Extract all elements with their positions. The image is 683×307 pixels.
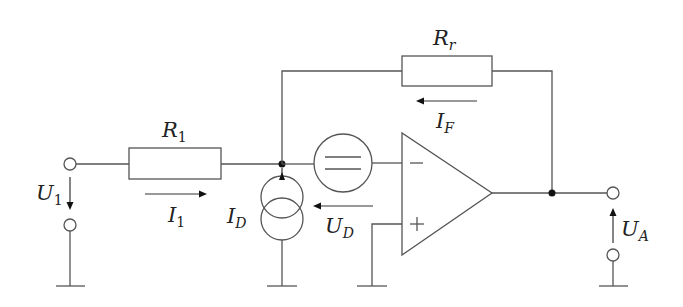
i1-current-arrow xyxy=(145,191,207,198)
rr-label: Rr xyxy=(432,26,457,53)
if-current-arrow xyxy=(416,98,477,105)
wire-plus-ground xyxy=(372,224,402,286)
output-terminal-top xyxy=(607,187,619,199)
resistor-rr xyxy=(402,56,492,86)
id-current-arrow xyxy=(279,168,285,180)
r1-label: R1 xyxy=(161,118,187,145)
resistor-r1 xyxy=(129,148,221,179)
input-terminal-top xyxy=(64,158,76,170)
circuit-diagram: U1 R1 I1 Rr IF xyxy=(0,0,683,307)
id-label: ID xyxy=(226,204,247,231)
ud-voltage-arrow xyxy=(313,203,373,210)
junction-output-node xyxy=(549,190,556,197)
voltage-source-ud xyxy=(314,134,372,192)
ua-label: UA xyxy=(621,217,649,244)
if-label: IF xyxy=(435,109,455,136)
op-amp xyxy=(402,133,492,255)
wire-feedback-right xyxy=(492,71,552,193)
i1-label: I1 xyxy=(167,203,185,230)
input-terminal-bottom xyxy=(64,219,76,231)
current-source-id xyxy=(261,176,303,240)
ua-voltage-arrow xyxy=(610,208,617,243)
u1-label: U1 xyxy=(36,181,63,208)
ud-label: UD xyxy=(325,214,354,241)
u1-voltage-arrow xyxy=(67,177,74,210)
output-terminal-bottom xyxy=(607,249,619,261)
